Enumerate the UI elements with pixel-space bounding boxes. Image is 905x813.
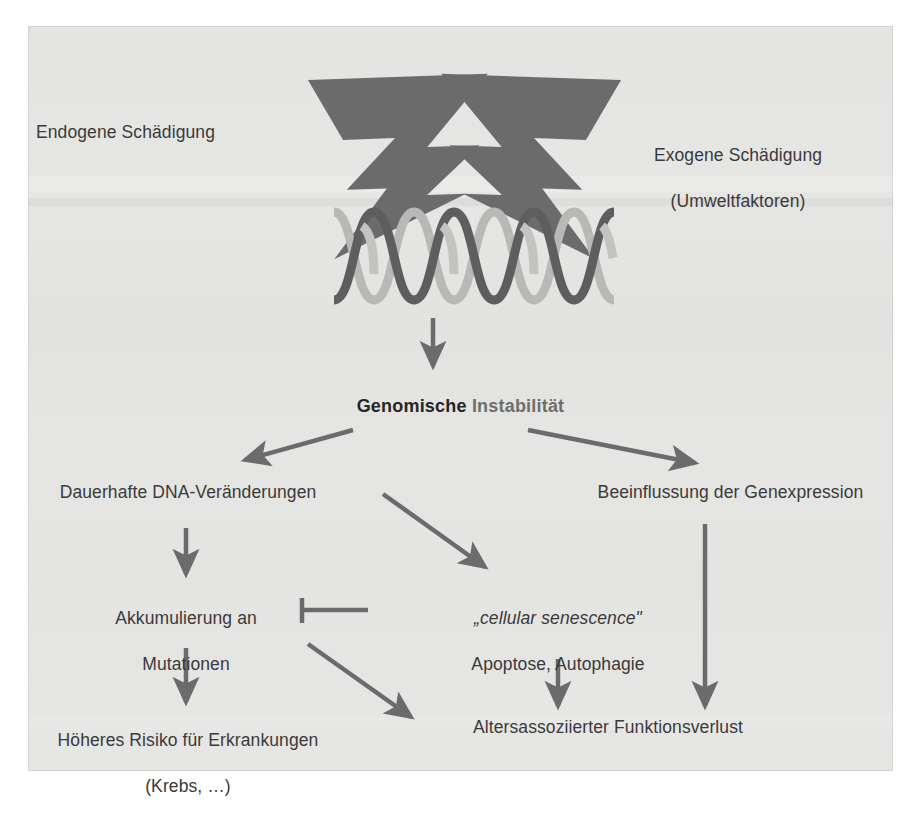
arrow-diagonal-right-icon-senescence	[383, 494, 485, 567]
label-altersassoziierter-funktionsverlust: Altersassoziierter Funktionsverlust	[408, 716, 808, 739]
arrow-diagonal-left-icon-split	[245, 430, 353, 460]
label-akkumulierung-an-mutationen: Akkumulierung an Mutationen	[76, 584, 296, 699]
figure-root: Endogene Schädigung Exogene Schädigung (…	[0, 0, 905, 813]
label-akkumulierung-line2: Mutationen	[76, 653, 296, 676]
label-hoeheres-risiko: Höheres Risiko für Erkrankungen (Krebs, …	[28, 706, 348, 813]
label-exogene-schaedigung: Exogene Schädigung (Umweltfaktoren)	[598, 121, 878, 236]
label-risiko-line1: Höheres Risiko für Erkrankungen	[28, 729, 348, 752]
label-genomische-instabilitaet: Genomische Instabilität	[28, 396, 893, 417]
label-exogene-line1: Exogene Schädigung	[598, 144, 878, 167]
label-dauerhafte-dna-veraenderungen: Dauerhafte DNA-Veränderungen	[28, 481, 348, 504]
label-beeinflussung-der-genexpression: Beeinflussung der Genexpression	[568, 481, 893, 504]
diagram-panel: Endogene Schädigung Exogene Schädigung (…	[28, 26, 893, 771]
label-akkumulierung-line1: Akkumulierung an	[76, 607, 296, 630]
label-senescence-line2: Apoptose, Autophagie	[428, 653, 688, 676]
title-bold-part: Genomische	[357, 396, 467, 416]
arrow-diagonal-right-icon-split	[528, 430, 695, 463]
label-risiko-line2: (Krebs, …)	[28, 775, 348, 798]
inhibition-tbar-icon	[300, 598, 368, 623]
label-endogene-schaedigung: Endogene Schädigung	[36, 121, 296, 144]
label-senescence-line1: „cellular senescence"	[428, 607, 688, 630]
label-cellular-senescence: „cellular senescence" Apoptose, Autophag…	[428, 584, 688, 699]
title-light-part: Instabilität	[472, 396, 564, 416]
label-exogene-line2: (Umweltfaktoren)	[598, 190, 878, 213]
